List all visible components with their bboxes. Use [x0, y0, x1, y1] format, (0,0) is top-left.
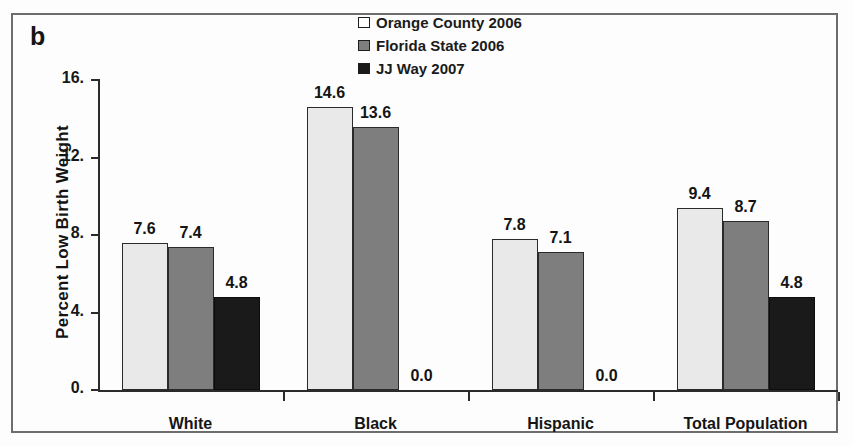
figure-panel-b: b Orange County 2006 Florida State 2006 … [0, 0, 853, 446]
category-label: Black [283, 415, 468, 433]
legend-swatch-gray-icon [358, 40, 370, 51]
bar [769, 297, 815, 390]
plot-area: 16.12.8.4.0. 7.67.44.814.613.60.07.87.10… [98, 80, 838, 390]
legend-item-jj-way: JJ Way 2007 [358, 58, 522, 79]
bar-value-label: 7.1 [530, 229, 592, 247]
category-label: Total Population [653, 415, 838, 433]
legend-label: JJ Way 2007 [376, 60, 465, 77]
bar-value-label: 4.8 [761, 274, 823, 292]
legend-label: Florida State 2006 [376, 37, 504, 54]
x-tick-mark [838, 392, 840, 401]
bar-value-label: 8.7 [715, 198, 777, 216]
legend-swatch-black-icon [358, 63, 370, 74]
category-label: Hispanic [468, 415, 653, 433]
panel-label: b [30, 22, 45, 51]
y-tick-label: 8. [71, 224, 84, 242]
y-tick-mark [91, 79, 100, 81]
y-tick-mark [91, 312, 100, 314]
bar [307, 107, 353, 390]
bar-value-label: 4.8 [206, 274, 268, 292]
bar [353, 127, 399, 391]
legend-item-orange-county: Orange County 2006 [358, 12, 522, 33]
bar-value-label: 14.6 [299, 84, 361, 102]
legend: Orange County 2006 Florida State 2006 JJ… [358, 12, 522, 79]
x-tick-mark [468, 392, 470, 401]
legend-swatch-white-icon [358, 17, 370, 28]
bar [214, 297, 260, 390]
bar [122, 243, 168, 390]
y-tick-label: 0. [71, 379, 84, 397]
bar [168, 247, 214, 390]
y-tick-label: 12. [62, 147, 84, 165]
bar [677, 208, 723, 390]
x-tick-mark [653, 392, 655, 401]
y-tick-mark [91, 389, 100, 391]
bar-value-label: 0.0 [391, 367, 453, 385]
y-tick-label: 4. [71, 302, 84, 320]
category-label: White [98, 415, 283, 433]
y-tick-mark [91, 157, 100, 159]
bar [723, 221, 769, 390]
y-tick-mark [91, 234, 100, 236]
legend-item-florida-state: Florida State 2006 [358, 35, 522, 56]
legend-label: Orange County 2006 [376, 14, 522, 31]
bar-value-label: 0.0 [576, 367, 638, 385]
bar [492, 239, 538, 390]
bar-value-label: 13.6 [345, 104, 407, 122]
bar-value-label: 7.4 [160, 224, 222, 242]
x-tick-mark [283, 392, 285, 401]
y-tick-label: 16. [62, 69, 84, 87]
